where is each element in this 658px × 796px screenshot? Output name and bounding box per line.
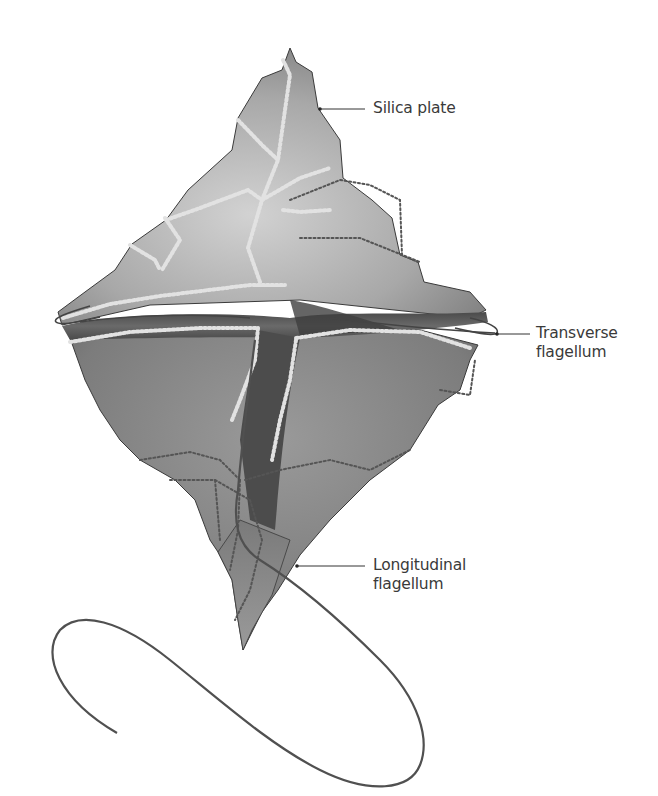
label-line: Longitudinal <box>373 556 466 575</box>
label-line: Transverse <box>536 324 618 343</box>
label-longitudinal-flagellum: Longitudinal flagellum <box>373 556 466 594</box>
dinoflagellate-illustration <box>0 0 658 796</box>
label-line: flagellum <box>373 575 466 594</box>
label-line: Silica plate <box>373 99 456 118</box>
label-silica-plate: Silica plate <box>373 99 456 118</box>
label-transverse-flagellum: Transverse flagellum <box>536 324 618 362</box>
label-line: flagellum <box>536 343 618 362</box>
